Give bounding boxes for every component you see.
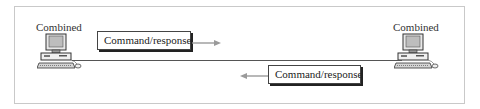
desktop-computer-icon [37, 33, 83, 73]
connection-line [72, 60, 402, 61]
message-box-outgoing: Command/response [97, 31, 191, 50]
right-node-label: Combined [393, 21, 439, 33]
left-node-label: Combined [36, 21, 82, 33]
arrow-right-icon [192, 39, 222, 47]
message-box-incoming: Command/response [268, 65, 361, 84]
arrow-left-icon [240, 72, 268, 80]
desktop-computer-icon [394, 33, 440, 73]
